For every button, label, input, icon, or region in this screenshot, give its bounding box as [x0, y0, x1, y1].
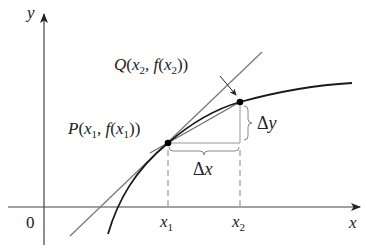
function-curve — [108, 83, 352, 234]
secant-line — [150, 102, 240, 153]
delta-x-brace — [169, 147, 239, 155]
origin-label: 0 — [26, 213, 35, 232]
point-q-label: Q(x2, f(x2)) — [114, 55, 188, 76]
point-q-dot — [237, 99, 244, 106]
point-p-label: P(x1, f(x1)) — [67, 119, 140, 140]
x2-tick-label: x2 — [231, 212, 245, 233]
x1-tick-label: x1 — [159, 212, 173, 233]
point-p-dot — [165, 140, 172, 147]
secant-diagram: y x 0 x1 x2 P(x1, f(x1)) Q(x2, f(x2)) Δx… — [0, 0, 367, 249]
x-axis-label: x — [348, 213, 357, 232]
y-axis-label: y — [25, 3, 35, 22]
delta-y-brace — [244, 106, 252, 140]
delta-x-label: Δx — [193, 159, 213, 179]
delta-y-label: Δy — [257, 113, 277, 133]
